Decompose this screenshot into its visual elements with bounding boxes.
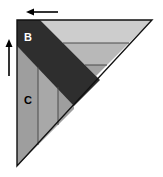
top-arrow [26, 9, 58, 16]
diagram-canvas: B C [0, 0, 163, 177]
left-arrow-head-icon [6, 39, 13, 47]
top-arrow-head-icon [26, 9, 34, 16]
label-c: C [24, 94, 32, 106]
folding-diagram-figure: B C [0, 0, 163, 177]
left-arrow [6, 39, 13, 76]
label-b: B [24, 31, 32, 43]
